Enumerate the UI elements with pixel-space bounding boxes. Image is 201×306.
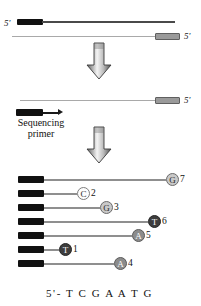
down-arrow-icon: [86, 42, 112, 80]
primer-block: [16, 109, 43, 116]
fragment-order-number: 1: [73, 243, 78, 255]
ladder-primer-bar: [18, 204, 44, 211]
primer-label-line-2: primer: [0, 128, 82, 139]
sequence-readout-text: 5'- T C G A A T G: [46, 287, 153, 299]
five-prime-label-top-right: 5': [184, 32, 190, 41]
ladder-extension-line: [44, 263, 114, 265]
reaction-arrow-2: [86, 126, 112, 164]
ladder-row: C2: [18, 187, 201, 201]
ladder-extension-line: [44, 207, 100, 209]
ladder-primer-bar: [18, 218, 44, 225]
down-arrow-icon: [86, 126, 112, 164]
five-prime-label-top-left: 5': [4, 19, 10, 28]
five-prime-label-mid-right: 5': [184, 96, 190, 105]
sequencing-primer-icon: [16, 109, 64, 116]
fragment-order-number: 6: [162, 215, 167, 227]
ladder-extension-line: [44, 235, 132, 237]
terminator-base-a-icon: A: [132, 229, 145, 242]
single-strand-template: [20, 100, 155, 101]
ladder-row: T1: [18, 243, 201, 257]
ladder-primer-bar: [18, 260, 44, 267]
template-top-strand: [42, 21, 175, 23]
ladder-row: G7: [18, 173, 201, 187]
ladder-primer-bar: [18, 246, 44, 253]
primer-extension-tail: [43, 112, 59, 114]
template-primer-block-top: [17, 19, 43, 25]
terminator-base-t-icon: T: [148, 215, 161, 228]
ladder-primer-bar: [18, 176, 44, 183]
fragment-order-number: 2: [91, 187, 96, 199]
ladder-extension-line: [44, 193, 77, 195]
reaction-arrow-1: [86, 42, 112, 80]
ladder-primer-bar: [18, 232, 44, 239]
ladder-row: G3: [18, 201, 201, 215]
figure-canvas: 5' 5' 5': [0, 0, 201, 306]
sequence-readout: 5'- T C G A A T G: [46, 283, 153, 301]
fragment-order-number: 5: [146, 229, 151, 241]
terminated-fragment-ladder: G7C2G3T6A5T1A4: [18, 173, 201, 273]
ladder-row: T6: [18, 215, 201, 229]
terminator-base-g-icon: G: [100, 201, 113, 214]
primer-label-line-1: Sequencing: [0, 117, 82, 128]
fragment-order-number: 3: [114, 201, 119, 213]
terminator-base-c-icon: C: [77, 187, 90, 200]
ladder-extension-line: [44, 249, 59, 251]
primer-arrow-head: [58, 109, 63, 115]
sequencing-primer-label: Sequencing primer: [0, 117, 82, 139]
tag-box-top-right: [155, 33, 180, 40]
fragment-order-number: 7: [180, 173, 185, 185]
terminator-base-t-icon: T: [59, 243, 72, 256]
fragment-order-number: 4: [128, 257, 133, 269]
template-bottom-strand: [12, 36, 155, 37]
ladder-extension-line: [44, 179, 166, 181]
ladder-row: A5: [18, 229, 201, 243]
top-duplex-group: 5' 5': [0, 10, 201, 40]
tag-box-mid-right: [155, 97, 180, 104]
ladder-row: A4: [18, 257, 201, 271]
terminator-base-a-icon: A: [114, 257, 127, 270]
terminator-base-g-icon: G: [166, 173, 179, 186]
ladder-primer-bar: [18, 190, 44, 197]
ladder-extension-line: [44, 221, 148, 223]
